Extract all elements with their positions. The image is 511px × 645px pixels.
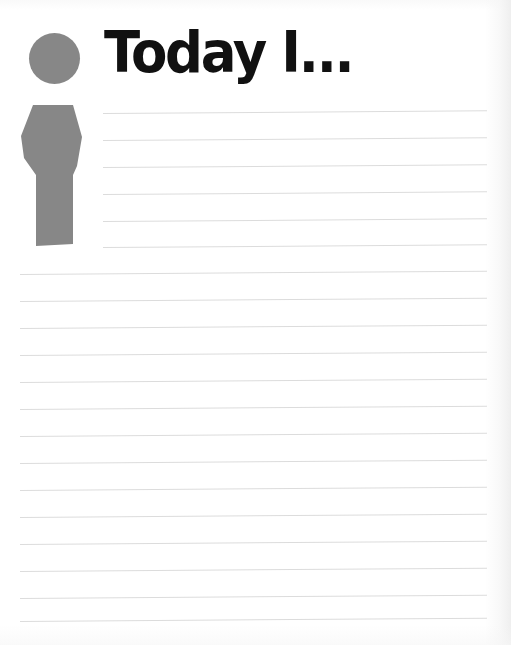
- writing-line-short[interactable]: [103, 218, 487, 222]
- scan-edge-shadow-bottom: [0, 625, 511, 645]
- person-body-icon: [20, 103, 86, 248]
- writing-line-short[interactable]: [103, 164, 487, 168]
- writing-line-full[interactable]: [20, 379, 487, 383]
- scan-edge-shadow-right: [485, 0, 511, 645]
- person-pictogram-icon: [20, 30, 86, 250]
- writing-line-full[interactable]: [20, 352, 487, 356]
- scan-edge-shadow-top: [0, 0, 511, 10]
- writing-line-full[interactable]: [20, 568, 487, 572]
- writing-line-short[interactable]: [103, 191, 487, 195]
- page-title: Today I...: [104, 21, 352, 83]
- writing-line-short[interactable]: [103, 244, 487, 248]
- writing-line-short[interactable]: [103, 137, 487, 141]
- writing-line-full[interactable]: [20, 514, 487, 518]
- person-head-icon: [29, 33, 80, 84]
- writing-line-full[interactable]: [20, 406, 487, 410]
- writing-line-full[interactable]: [20, 325, 487, 329]
- worksheet-page: Today I...: [0, 0, 511, 645]
- writing-line-full[interactable]: [20, 487, 487, 491]
- writing-line-full[interactable]: [20, 460, 487, 464]
- writing-line-short[interactable]: [103, 110, 487, 114]
- writing-line-full[interactable]: [20, 595, 487, 599]
- writing-line-full[interactable]: [20, 433, 487, 437]
- writing-line-full[interactable]: [20, 618, 487, 622]
- writing-line-full[interactable]: [20, 271, 487, 275]
- writing-line-full[interactable]: [20, 298, 487, 302]
- writing-line-full[interactable]: [20, 541, 487, 545]
